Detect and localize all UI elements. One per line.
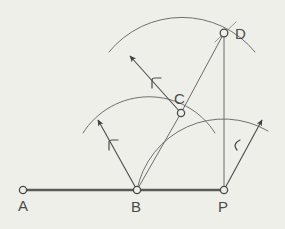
- geometry-figure: A B P C D: [0, 0, 285, 229]
- point-label-d: D: [235, 25, 246, 42]
- point-label-a: A: [18, 197, 28, 214]
- point-label-c: C: [174, 90, 185, 107]
- point-marker-p: [220, 186, 227, 193]
- point-label-b: B: [131, 198, 141, 215]
- point-marker-d: [220, 29, 228, 37]
- construction-drawing: A B P C D: [0, 0, 285, 229]
- point-label-p: P: [218, 198, 228, 215]
- point-marker-a: [19, 186, 26, 193]
- point-marker-c: [177, 109, 184, 116]
- point-marker-b: [133, 186, 140, 193]
